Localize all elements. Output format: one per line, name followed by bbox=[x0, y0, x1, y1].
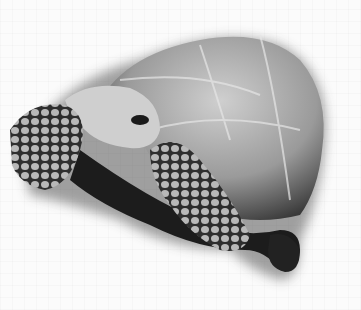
tortoise-illustration bbox=[0, 0, 361, 310]
tortoise-photo bbox=[0, 0, 361, 310]
eye bbox=[131, 115, 149, 125]
